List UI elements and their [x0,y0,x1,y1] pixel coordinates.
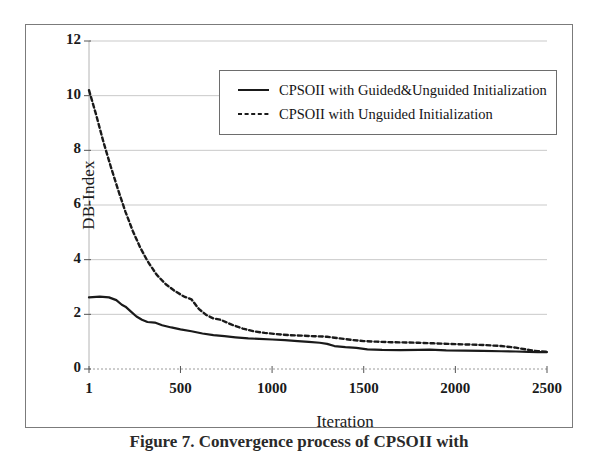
y-tick-label: 4 [47,250,81,267]
chart-frame: 024681012 15001000150020002500 DB-Index … [25,24,573,428]
y-axis-title: DB-Index [79,125,99,265]
x-axis-title: Iteration [114,412,576,432]
dashed-line-swatch [237,108,270,120]
x-tick-label: 2500 [517,380,577,397]
x-tick-label: 1000 [242,380,302,397]
legend-label-guided-unguided: CPSOII with Guided&Unguided Initializati… [279,82,547,99]
figure-caption: Figure 7. Convergence process of CPSOII … [25,432,573,452]
y-tick-label: 10 [47,86,81,103]
legend-item-guided-unguided: CPSOII with Guided&Unguided Initializati… [220,78,556,102]
figure-container: 024681012 15001000150020002500 DB-Index … [0,0,598,452]
x-tick-label: 1 [59,380,119,397]
y-tick-label: 2 [47,304,81,321]
y-tick-label: 6 [47,195,81,212]
y-tick-label: 8 [47,140,81,157]
y-tick-label: 0 [47,359,81,376]
series-line-1 [89,297,547,352]
chart-legend: CPSOII with Guided&Unguided Initializati… [219,70,557,135]
x-tick-label: 2000 [425,380,485,397]
x-tick-label: 1500 [334,380,394,397]
x-tick-label: 500 [150,380,210,397]
legend-item-unguided: CPSOII with Unguided Initialization [220,102,556,126]
legend-label-unguided: CPSOII with Unguided Initialization [279,106,493,123]
solid-line-swatch [237,84,270,96]
y-tick-label: 12 [47,31,81,48]
